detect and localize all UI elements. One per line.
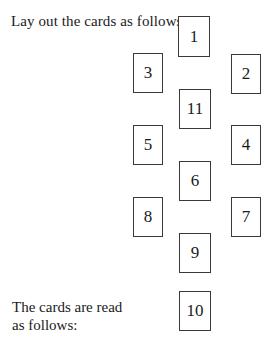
card-4: 4	[231, 125, 261, 165]
card-1: 1	[178, 16, 210, 57]
card-number: 8	[144, 207, 153, 227]
card-number: 3	[144, 63, 153, 83]
card-10: 10	[179, 291, 211, 331]
card-5: 5	[133, 125, 163, 165]
card-7: 7	[231, 197, 261, 237]
card-3: 3	[133, 53, 163, 93]
card-number: 2	[242, 64, 251, 84]
card-8: 8	[133, 197, 163, 237]
card-number: 9	[191, 243, 200, 263]
card-number: 1	[190, 27, 199, 47]
layout-instruction-text: Lay out the cards as follows:	[11, 12, 187, 30]
card-6: 6	[179, 161, 211, 201]
reading-instruction-text: The cards are read as follows:	[12, 298, 132, 334]
card-number: 6	[191, 171, 200, 191]
card-9: 9	[179, 233, 211, 273]
card-number: 7	[242, 207, 251, 227]
card-number: 5	[144, 135, 153, 155]
card-11: 11	[179, 89, 211, 129]
card-2: 2	[231, 54, 261, 94]
card-number: 10	[187, 301, 204, 321]
card-number: 4	[242, 135, 251, 155]
card-number: 11	[187, 99, 203, 119]
